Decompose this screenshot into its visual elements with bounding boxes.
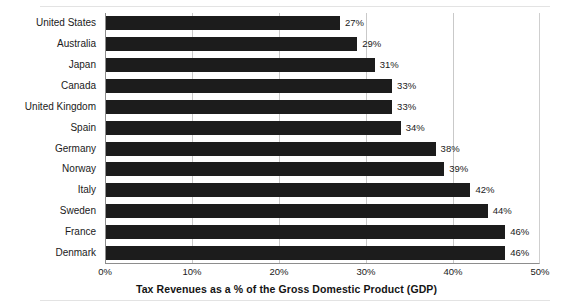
bar: [105, 204, 488, 218]
plot-area: 27%29%31%33%33%34%38%39%42%44%46%46%: [105, 13, 540, 264]
bar: [105, 100, 392, 114]
bar: [105, 162, 444, 176]
bar-row: 42%: [105, 180, 540, 201]
bar-value-label: 38%: [441, 140, 460, 157]
category-label: Norway: [62, 159, 96, 180]
x-axis-ticks: 0%10%20%30%40%50%: [105, 266, 540, 282]
bar: [105, 79, 392, 93]
bar-value-label: 39%: [449, 160, 468, 177]
chart-figure: United StatesAustraliaJapanCanadaUnited …: [0, 0, 573, 308]
bar-row: 38%: [105, 139, 540, 160]
category-label: France: [65, 222, 96, 243]
category-label: Germany: [55, 139, 96, 160]
bar-value-label: 42%: [475, 181, 494, 198]
bar-row: 46%: [105, 243, 540, 264]
bar: [105, 58, 375, 72]
bar-row: 34%: [105, 118, 540, 139]
bar-row: 27%: [105, 13, 540, 34]
category-label: Italy: [78, 180, 96, 201]
x-tick-label: 40%: [443, 266, 462, 277]
category-label: Spain: [70, 118, 96, 139]
category-label: United Kingdom: [25, 97, 96, 118]
page-rule-bottom: [40, 300, 550, 301]
bar-value-label: 33%: [397, 77, 416, 94]
bar: [105, 37, 357, 51]
x-tick-label: 0%: [98, 266, 112, 277]
bar-row: 29%: [105, 34, 540, 55]
bar-value-label: 46%: [510, 223, 529, 240]
bar-row: 33%: [105, 97, 540, 118]
bar: [105, 183, 470, 197]
bar-value-label: 29%: [362, 35, 381, 52]
bar-value-label: 27%: [345, 14, 364, 31]
bar-row: 39%: [105, 159, 540, 180]
bar-series: 27%29%31%33%33%34%38%39%42%44%46%46%: [105, 13, 540, 264]
x-tick-label: 10%: [182, 266, 201, 277]
bar: [105, 16, 340, 30]
bar: [105, 225, 505, 239]
bar-value-label: 46%: [510, 244, 529, 261]
category-label: United States: [36, 13, 96, 34]
bar-value-label: 44%: [493, 202, 512, 219]
bar-row: 46%: [105, 222, 540, 243]
bar-row: 44%: [105, 201, 540, 222]
bar-row: 33%: [105, 76, 540, 97]
page-rule-top: [40, 6, 550, 7]
category-label: Australia: [57, 34, 96, 55]
x-tick-label: 20%: [269, 266, 288, 277]
bar-value-label: 34%: [406, 119, 425, 136]
bar-value-label: 33%: [397, 98, 416, 115]
x-axis-title: Tax Revenues as a % of the Gross Domesti…: [0, 283, 573, 295]
bar: [105, 142, 436, 156]
x-tick-label: 30%: [356, 266, 375, 277]
bar-value-label: 31%: [380, 56, 399, 73]
category-label: Sweden: [60, 201, 96, 222]
bar: [105, 246, 505, 260]
category-label: Japan: [69, 55, 96, 76]
bar: [105, 121, 401, 135]
category-axis-labels: United StatesAustraliaJapanCanadaUnited …: [0, 13, 100, 264]
x-tick-label: 50%: [530, 266, 549, 277]
bar-row: 31%: [105, 55, 540, 76]
category-label: Canada: [61, 76, 96, 97]
category-label: Denmark: [55, 243, 96, 264]
